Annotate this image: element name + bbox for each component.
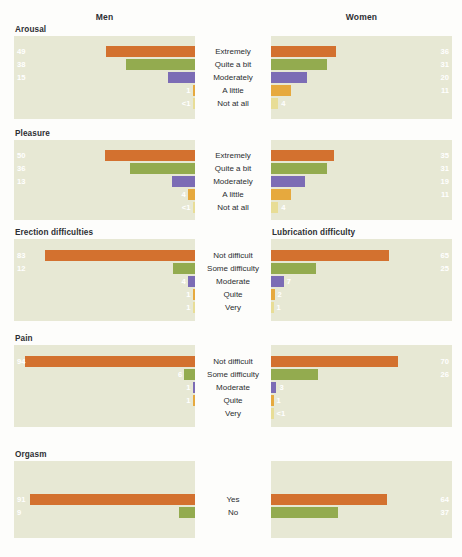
bar-group-right: 2 bbox=[271, 289, 452, 300]
bar-group-left: 49 bbox=[14, 46, 195, 57]
bar-orgasm-1-left bbox=[179, 507, 195, 518]
bar-value-orgasm-0-left: 91 bbox=[17, 494, 25, 505]
bar-pain-4-right bbox=[271, 408, 274, 419]
bar-group-left: 1 bbox=[14, 85, 195, 96]
bar-difficulty-2-left bbox=[188, 276, 195, 287]
bar-value-pleasure-1-left: 36 bbox=[17, 163, 25, 174]
bar-row: 11Very bbox=[0, 302, 462, 313]
bar-group-right: <1 bbox=[271, 408, 452, 419]
bar-value-pain-0-left: 94 bbox=[17, 356, 25, 367]
bar-difficulty-0-left bbox=[45, 250, 195, 261]
row-label-pain-2: Moderate bbox=[195, 382, 271, 393]
section-title-left-orgasm: Orgasm bbox=[15, 450, 47, 459]
bar-difficulty-4-right bbox=[271, 302, 274, 313]
bar-pain-1-right bbox=[271, 369, 318, 380]
bar-value-pain-4-right: <1 bbox=[277, 408, 286, 419]
row-label-pleasure-4: Not at all bbox=[195, 202, 271, 213]
bar-row: 411A little bbox=[0, 189, 462, 200]
bar-value-difficulty-1-left: 12 bbox=[17, 263, 25, 274]
bar-group-left: 1 bbox=[14, 302, 195, 313]
row-label-pleasure-3: A little bbox=[195, 189, 271, 200]
bar-value-pain-3-left: 1 bbox=[186, 395, 190, 406]
row-label-difficulty-0: Not difficult bbox=[195, 250, 271, 261]
bar-row: 1520Moderately bbox=[0, 72, 462, 83]
bar-row: 626Some difficulty bbox=[0, 369, 462, 380]
bar-group-right: 31 bbox=[271, 163, 452, 174]
row-label-arousal-0: Extremely bbox=[195, 46, 271, 57]
bar-value-arousal-0-left: 49 bbox=[17, 46, 25, 57]
bar-row: 9164Yes bbox=[0, 494, 462, 505]
bar-group-left: 15 bbox=[14, 72, 195, 83]
bar-group-right: 35 bbox=[271, 150, 452, 161]
bar-group-left: 4 bbox=[14, 189, 195, 200]
bar-row: 47Moderate bbox=[0, 276, 462, 287]
bar-group-right: 7 bbox=[271, 276, 452, 287]
bar-value-arousal-4-left: <1 bbox=[182, 98, 191, 109]
bar-row: 4936Extremely bbox=[0, 46, 462, 57]
bar-difficulty-2-right bbox=[271, 276, 284, 287]
section-title-left-difficulty: Erection difficulties bbox=[15, 228, 93, 237]
row-label-arousal-4: Not at all bbox=[195, 98, 271, 109]
row-label-arousal-3: A little bbox=[195, 85, 271, 96]
bar-group-right: 70 bbox=[271, 356, 452, 367]
bar-arousal-0-left bbox=[106, 46, 195, 57]
row-label-arousal-1: Quite a bit bbox=[195, 59, 271, 70]
section-title-left-pain: Pain bbox=[15, 334, 33, 343]
bar-row: 5035Extremely bbox=[0, 150, 462, 161]
bar-value-pleasure-4-right: 4 bbox=[281, 202, 285, 213]
bar-value-pain-1-left: 6 bbox=[178, 369, 182, 380]
bar-group-left: 38 bbox=[14, 59, 195, 70]
bar-row: 8365Not difficult bbox=[0, 250, 462, 261]
bar-group-left: 36 bbox=[14, 163, 195, 174]
bar-pleasure-1-left bbox=[130, 163, 195, 174]
bar-group-right: 26 bbox=[271, 369, 452, 380]
bar-row: 111A little bbox=[0, 85, 462, 96]
bar-value-orgasm-0-right: 64 bbox=[441, 494, 449, 505]
bar-group-left: 12 bbox=[14, 263, 195, 274]
bar-group-right: 3 bbox=[271, 382, 452, 393]
bar-row: 9470Not difficult bbox=[0, 356, 462, 367]
bar-pleasure-3-left bbox=[188, 189, 195, 200]
column-header-women: Women bbox=[271, 12, 452, 22]
bar-row: 3631Quite a bit bbox=[0, 163, 462, 174]
bar-value-pleasure-2-left: 13 bbox=[17, 176, 25, 187]
bar-value-difficulty-4-left: 1 bbox=[186, 302, 190, 313]
row-label-difficulty-1: Some difficulty bbox=[195, 263, 271, 274]
section-title-left-pleasure: Pleasure bbox=[15, 129, 50, 138]
row-label-arousal-2: Moderately bbox=[195, 72, 271, 83]
section-title-right-difficulty: Lubrication difficulty bbox=[272, 228, 355, 237]
bar-value-difficulty-2-right: 7 bbox=[287, 276, 291, 287]
bar-row: 1225Some difficulty bbox=[0, 263, 462, 274]
bar-value-pain-2-left: 1 bbox=[186, 382, 190, 393]
bar-group-right: 37 bbox=[271, 507, 452, 518]
bar-group-left: 4 bbox=[14, 276, 195, 287]
bar-group-left: 1 bbox=[14, 395, 195, 406]
column-header-men: Men bbox=[14, 12, 195, 22]
bar-group-right: 4 bbox=[271, 202, 452, 213]
bar-group-right: 20 bbox=[271, 72, 452, 83]
bar-value-pleasure-3-right: 11 bbox=[441, 189, 449, 200]
row-label-pleasure-0: Extremely bbox=[195, 150, 271, 161]
bar-arousal-1-right bbox=[271, 59, 327, 70]
bar-value-difficulty-2-left: 4 bbox=[182, 276, 186, 287]
bar-group-right: 65 bbox=[271, 250, 452, 261]
bar-difficulty-3-right bbox=[271, 289, 275, 300]
row-label-pleasure-1: Quite a bit bbox=[195, 163, 271, 174]
bar-row: <14Not at all bbox=[0, 98, 462, 109]
row-label-pain-4: Very bbox=[195, 408, 271, 419]
bar-group-right: 1 bbox=[271, 302, 452, 313]
bar-group-left: 50 bbox=[14, 150, 195, 161]
row-label-difficulty-3: Quite bbox=[195, 289, 271, 300]
bar-value-pleasure-4-left: <1 bbox=[182, 202, 191, 213]
row-label-pleasure-2: Moderately bbox=[195, 176, 271, 187]
bar-group-left: <1 bbox=[14, 202, 195, 213]
bar-value-pleasure-1-right: 31 bbox=[441, 163, 449, 174]
bar-row: 13Moderate bbox=[0, 382, 462, 393]
bar-value-pain-2-right: 3 bbox=[279, 382, 283, 393]
row-label-difficulty-4: Very bbox=[195, 302, 271, 313]
bar-group-left: 94 bbox=[14, 356, 195, 367]
bar-pain-1-left bbox=[184, 369, 195, 380]
bar-group-left: 83 bbox=[14, 250, 195, 261]
bar-group-left: 6 bbox=[14, 369, 195, 380]
section-title-left-arousal: Arousal bbox=[15, 25, 46, 34]
